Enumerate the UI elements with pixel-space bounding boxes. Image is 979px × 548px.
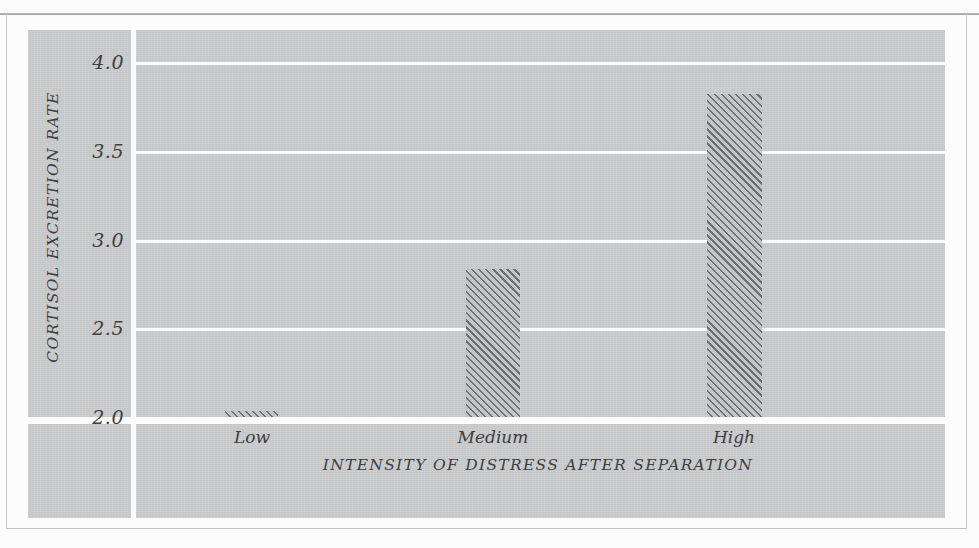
x-tick-label-low: Low xyxy=(192,427,312,447)
figure-page: 4.0 3.5 3.0 2.5 2.0 CORTISOL EXCRETION R… xyxy=(0,0,979,548)
bar-medium xyxy=(466,269,520,420)
y-tick-label-2-0: 2.0 xyxy=(92,406,124,428)
x-axis-title: INTENSITY OF DISTRESS AFTER SEPARATION xyxy=(131,456,945,474)
y-tick-label-3-0: 3.0 xyxy=(92,229,124,251)
y-tick-label-2-5: 2.5 xyxy=(92,317,124,339)
x-tick-label-medium: Medium xyxy=(433,427,553,447)
y-tick-label-3-5: 3.5 xyxy=(92,140,124,162)
y-axis-title: CORTISOL EXCRETION RATE xyxy=(44,77,62,377)
y-tick-label-4-0: 4.0 xyxy=(92,51,124,73)
bar-series xyxy=(131,30,945,420)
x-tick-label-high: High xyxy=(674,427,794,447)
x-tick-labels: Low Medium High xyxy=(131,427,945,453)
x-axis-baseline xyxy=(28,417,945,424)
bar-high xyxy=(707,94,762,420)
